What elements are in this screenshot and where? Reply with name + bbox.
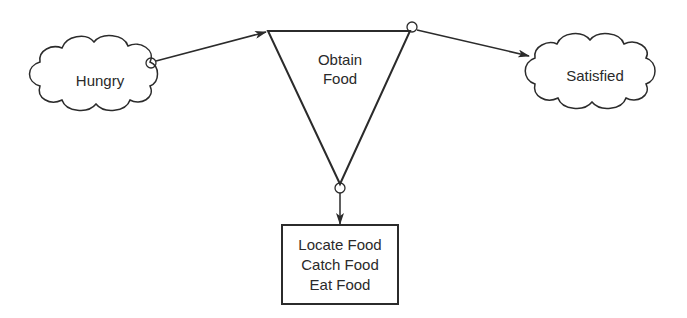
- obtain-food-line1: Obtain: [300, 50, 380, 69]
- edge-obtain-to-satisfied: [417, 30, 529, 56]
- subtask-locate: Locate Food: [282, 235, 398, 255]
- obtain-food-line2: Food: [300, 69, 380, 88]
- subtasks-label: Locate Food Catch Food Eat Food: [282, 235, 398, 295]
- obtain-food-label: Obtain Food: [300, 50, 380, 88]
- edge-hungry-to-obtain: [156, 32, 266, 61]
- subtask-catch: Catch Food: [282, 255, 398, 275]
- obtain-exit-circle-top: [407, 22, 417, 32]
- satisfied-label: Satisfied: [550, 66, 640, 85]
- hungry-label: Hungry: [60, 71, 140, 90]
- subtask-eat: Eat Food: [282, 275, 398, 295]
